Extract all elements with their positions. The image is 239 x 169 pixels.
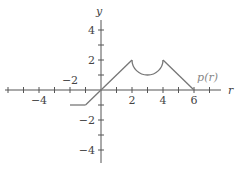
y-tick-label: 2	[88, 54, 95, 67]
function-label: p(r)	[197, 71, 218, 84]
x-tick-label: 2	[129, 94, 136, 107]
y-tick-label: 4	[88, 24, 95, 37]
curve-semicircle	[132, 60, 163, 75]
x-tick-label: 4	[160, 94, 167, 107]
y-tick-label: −2	[79, 114, 95, 127]
y-axis-label: y	[95, 5, 103, 18]
tick-labels: −4−224642−2−4ryp(r)	[31, 5, 234, 157]
y-tick-label: −4	[79, 144, 95, 157]
x-tick-label: −2	[62, 74, 78, 87]
curve-segment	[163, 60, 194, 90]
plot: −4−224642−2−4ryp(r)	[0, 0, 239, 169]
x-tick-label: 6	[191, 94, 198, 107]
x-tick-label: −4	[31, 94, 47, 107]
x-axis-label: r	[228, 84, 234, 97]
axes	[5, 20, 221, 163]
